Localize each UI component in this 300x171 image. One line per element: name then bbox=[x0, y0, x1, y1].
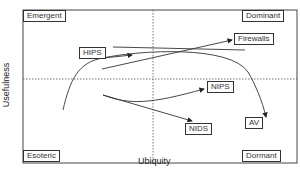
node-nips: NIPS bbox=[207, 81, 234, 93]
quadrant-label-dormant: Dormant bbox=[242, 150, 281, 162]
node-firewalls: Firewalls bbox=[234, 33, 274, 45]
top-line bbox=[113, 47, 245, 50]
node-nids: NIDS bbox=[185, 123, 212, 135]
lifecycle-curve bbox=[63, 52, 266, 117]
node-hips: HIPS bbox=[79, 47, 106, 59]
nids-arrow bbox=[103, 95, 192, 121]
diagram-canvas bbox=[0, 0, 300, 171]
node-av: AV bbox=[245, 117, 263, 129]
y-axis-label: Usefulness bbox=[1, 63, 11, 108]
x-axis-label: Ubiquity bbox=[138, 156, 171, 166]
quadrant-label-dominant: Dominant bbox=[242, 10, 284, 22]
quadrant-label-esoteric: Esoteric bbox=[23, 150, 60, 162]
quadrant-label-emergent: Emergent bbox=[23, 10, 66, 22]
